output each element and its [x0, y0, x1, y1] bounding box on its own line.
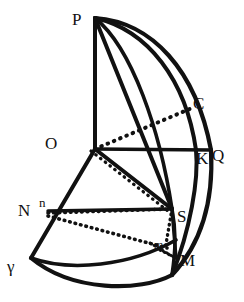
arc-P-C-K [95, 18, 196, 150]
line-S-M [172, 209, 176, 258]
label-m: m [154, 239, 163, 251]
label-O: O [45, 135, 57, 152]
label-M: M [180, 252, 195, 269]
label-n: n [39, 196, 46, 209]
label-C: C [193, 95, 204, 112]
label-N: N [18, 202, 30, 219]
label-P: P [72, 11, 81, 28]
label-gamma: γ [7, 258, 15, 275]
line-O-Q [95, 149, 211, 150]
label-K: K [196, 150, 208, 167]
geometry-figure: P C O K Q N n S m M γ [0, 0, 244, 302]
label-Q: Q [212, 147, 224, 164]
dotted-O-S [91, 151, 168, 211]
label-S: S [177, 208, 186, 225]
